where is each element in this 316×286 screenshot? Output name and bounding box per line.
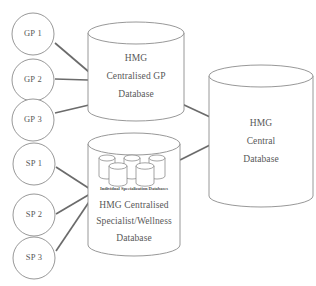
connector-sp1-to-specialist-db (56, 167, 90, 189)
specialist-database-cylinder[interactable]: Individual Specialization Databases HMG … (88, 133, 180, 256)
sp2-label: SP 2 (26, 209, 43, 219)
specialist-db-line-2: Specialist/Wellness (96, 216, 172, 226)
connector-group-gp (55, 43, 89, 113)
connector-group-sp (56, 167, 91, 251)
connector-gp3-to-gp-db (55, 105, 89, 113)
connector-gp2-to-gp-db (55, 79, 88, 80)
gp-database-cylinder[interactable]: HMG Centralised GP Database (88, 22, 184, 121)
specialist-db-top (88, 133, 180, 155)
connector-sp2-to-specialist-db (56, 194, 90, 214)
inner-cyl-3-top (149, 155, 165, 161)
gp-node-gp2[interactable]: GP 2 (12, 59, 54, 101)
gp-db-line-1: HMG (125, 53, 148, 63)
inner-cyl-1-top (99, 155, 115, 161)
sp-node-sp3[interactable]: SP 3 (13, 237, 55, 279)
specialist-db-line-3: Database (116, 233, 152, 243)
gp2-label: GP 2 (24, 74, 42, 84)
gp1-label: GP 1 (24, 28, 42, 38)
gp-db-top (88, 22, 184, 44)
central-db-line-2: Central (247, 136, 276, 146)
diagram-canvas: GP 1 GP 2 GP 3 SP 1 SP 2 SP 3 HMG Cen (0, 0, 316, 286)
inner-cylinders-caption: Individual Specialization Databases (100, 186, 168, 191)
gp-db-line-2: Centralised GP (106, 71, 165, 81)
central-db-top (209, 65, 313, 87)
sp1-label: SP 1 (26, 158, 43, 168)
sp3-label: SP 3 (26, 252, 43, 262)
sp-node-sp2[interactable]: SP 2 (13, 194, 55, 236)
gp-node-gp3[interactable]: GP 3 (12, 99, 54, 141)
inner-cyl-4-top (109, 163, 127, 169)
central-db-line-3: Database (243, 154, 279, 164)
connector-sp3-to-specialist-db (56, 199, 91, 251)
inner-cylinder-front-1 (109, 163, 127, 186)
inner-cyl-2-top (124, 155, 140, 161)
inner-cylinder-front-2 (136, 163, 154, 186)
architecture-diagram: GP 1 GP 2 GP 3 SP 1 SP 2 SP 3 HMG Cen (0, 0, 316, 286)
gp-node-gp1[interactable]: GP 1 (12, 13, 54, 55)
sp-node-sp1[interactable]: SP 1 (13, 143, 55, 185)
connector-group-central (180, 104, 210, 160)
gp-db-line-3: Database (118, 89, 154, 99)
gp3-label: GP 3 (24, 114, 42, 124)
inner-cyl-5-top (136, 163, 154, 169)
connector-gp-db-to-central-db (182, 104, 210, 117)
connector-gp1-to-gp-db (55, 43, 89, 72)
connector-specialist-db-to-central-db (180, 145, 210, 160)
specialist-db-line-1: HMG Centralised (99, 200, 168, 210)
central-db-line-1: HMG (250, 118, 273, 128)
central-database-cylinder[interactable]: HMG Central Database (209, 65, 313, 207)
